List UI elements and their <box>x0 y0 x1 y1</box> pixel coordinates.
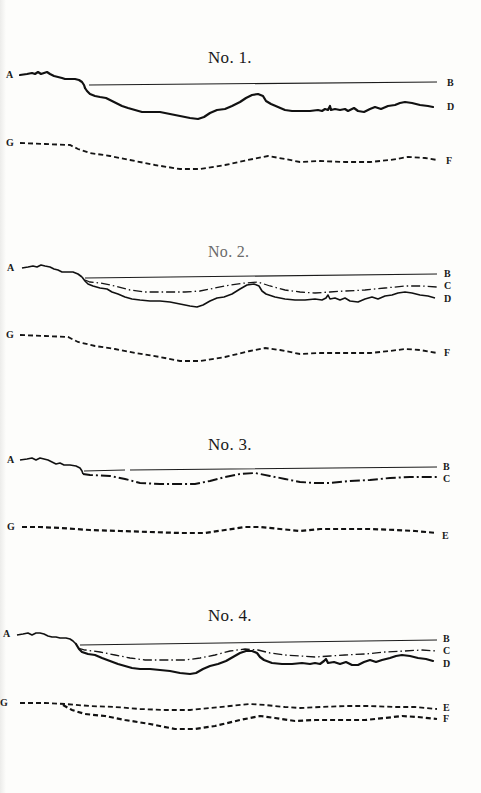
fig3-line-b <box>84 467 437 471</box>
fig3-curve-a-start <box>20 458 83 474</box>
fig3-dashed-g-e <box>22 527 437 533</box>
fig1-dashed-g-f <box>20 143 437 169</box>
fig2-dashdot-c <box>85 280 437 293</box>
fig4-curve-d <box>76 644 433 674</box>
figure-3 <box>20 458 437 533</box>
figure-2 <box>20 265 437 361</box>
fig1-curve-d <box>85 88 433 119</box>
fig4-line-b <box>80 640 437 645</box>
fig2-curve-a-start <box>22 265 82 277</box>
fig1-line-b <box>89 82 437 85</box>
figure-4 <box>17 633 437 729</box>
fig1-curve-a-start <box>20 72 85 88</box>
fig2-curve-d <box>82 277 435 307</box>
fig4-dashed-g-e <box>20 703 437 710</box>
figure-1 <box>20 72 437 169</box>
fig4-dashed-g-f <box>63 705 437 729</box>
fig3-dashdot-c <box>83 473 437 484</box>
fig2-line-b <box>85 274 437 278</box>
profile-diagrams <box>0 0 481 793</box>
diagram-page: No. 1. A B D G F No. 2. A B C D G F No. … <box>0 0 481 793</box>
fig4-curve-a-start <box>17 633 76 644</box>
fig2-dashed-g-f <box>20 335 437 361</box>
